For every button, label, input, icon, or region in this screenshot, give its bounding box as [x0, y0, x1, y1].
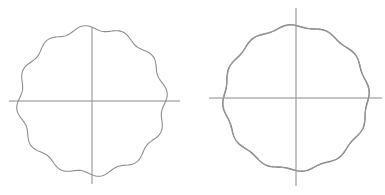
left-figure — [9, 26, 180, 184]
diagram-canvas — [0, 0, 385, 195]
right-figure — [209, 8, 382, 186]
